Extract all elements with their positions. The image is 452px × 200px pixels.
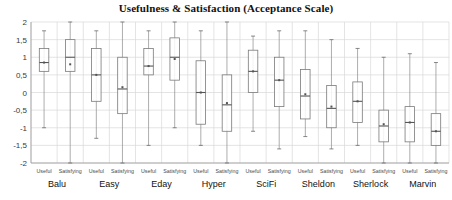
y-axis-tick-label: 1,5 (16, 36, 28, 45)
x-axis-sublabel: Satisfying (111, 168, 134, 174)
mean-marker (95, 74, 97, 76)
x-axis-sublabel: Satisfying (320, 168, 343, 174)
mean-marker (226, 102, 228, 104)
y-axis-tick-label: -1 (20, 124, 28, 133)
box-iqr (118, 57, 128, 113)
x-axis-group-label: Marvin (409, 179, 436, 189)
box-iqr (65, 40, 75, 72)
mean-marker (252, 70, 254, 72)
x-axis-sublabel: Satisfying (59, 168, 82, 174)
x-axis-sublabel: Satisfying (215, 168, 238, 174)
mean-marker (304, 93, 306, 95)
y-axis-tick-label: 1 (23, 53, 28, 62)
x-axis-group-label: Easy (99, 179, 120, 189)
mean-marker (121, 86, 123, 88)
mean-marker (357, 100, 359, 102)
boxplot-chart: Usefulness & Satisfaction (Acceptance Sc… (0, 0, 452, 200)
y-axis-tick-label: -2 (20, 159, 28, 168)
x-axis-group-label: Eday (151, 179, 172, 189)
mean-marker (383, 123, 385, 125)
x-axis-sublabel: Satisfying (372, 168, 395, 174)
mean-marker (435, 130, 437, 132)
mean-marker (278, 79, 280, 81)
x-axis-group-label: SciFi (256, 179, 276, 189)
mean-marker (200, 92, 202, 94)
y-axis-tick-label: 2 (23, 18, 28, 27)
x-axis-sublabel: Useful (37, 168, 52, 174)
y-axis-tick-label: 0 (23, 89, 28, 98)
x-axis-sublabel: Useful (402, 168, 417, 174)
y-axis-tick-label: -0,5 (13, 106, 27, 115)
box-iqr (405, 107, 415, 142)
x-axis-sublabel: Useful (246, 168, 261, 174)
y-axis-tick-label: 0,5 (16, 71, 28, 80)
box-iqr (274, 57, 284, 106)
box-iqr (39, 48, 49, 71)
x-axis-group-label: Balu (48, 179, 66, 189)
x-axis-group-label: Hyper (202, 179, 226, 189)
chart-canvas: 21,510,50-0,5-1-1,5-2UsefulSatisfyingUse… (0, 0, 452, 200)
x-axis-sublabel: Useful (298, 168, 313, 174)
x-axis-sublabel: Useful (350, 168, 365, 174)
mean-marker (148, 65, 150, 67)
x-axis-sublabel: Useful (141, 168, 156, 174)
mean-marker (174, 58, 176, 60)
mean-marker (69, 63, 71, 65)
x-axis-sublabel: Satisfying (268, 168, 291, 174)
x-axis-sublabel: Useful (89, 168, 104, 174)
x-axis-sublabel: Satisfying (163, 168, 186, 174)
x-axis-group-label: Sherlock (353, 179, 389, 189)
box-iqr (144, 48, 154, 74)
x-axis-group-label: Sheldon (302, 179, 335, 189)
mean-marker (330, 106, 332, 108)
x-axis-sublabel: Useful (193, 168, 208, 174)
mean-marker (43, 62, 45, 64)
box-iqr (431, 114, 441, 146)
y-axis-tick-label: -1,5 (13, 141, 27, 150)
x-axis-sublabel: Satisfying (424, 168, 447, 174)
mean-marker (409, 121, 411, 123)
